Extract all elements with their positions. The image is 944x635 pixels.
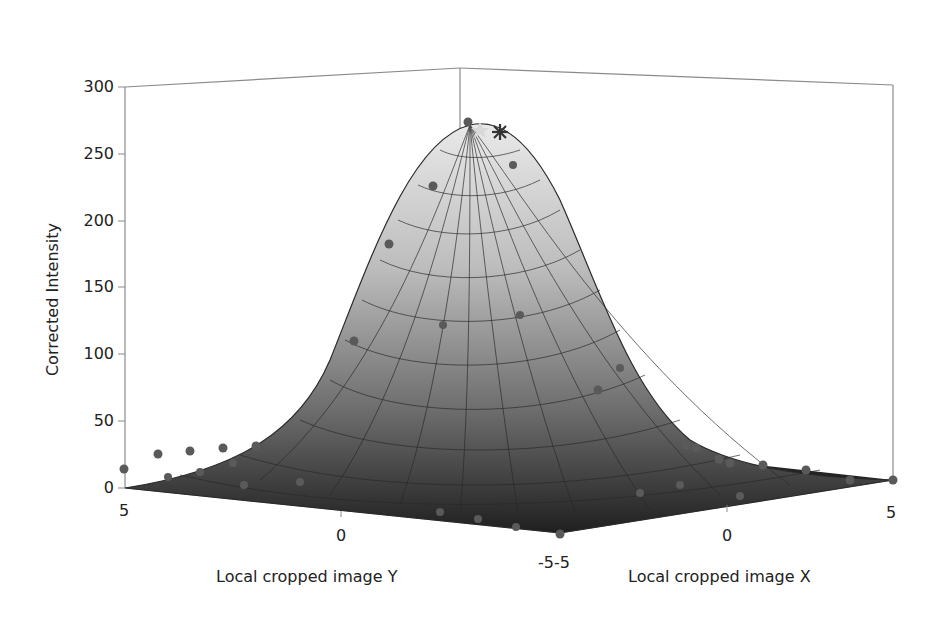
corner-tick: -5-5: [538, 555, 570, 571]
z-axis-title: Corrected Intensity: [43, 220, 62, 380]
z-tick-150: 150: [64, 279, 114, 295]
z-tick-250: 250: [64, 146, 114, 162]
y-tick-0: 0: [336, 528, 346, 544]
z-tick-0: 0: [64, 480, 114, 496]
y-tick-5: 5: [119, 503, 129, 519]
surface-plot: [0, 0, 944, 635]
z-tick-100: 100: [64, 346, 114, 362]
fitted-max-asterisk-marker: [492, 124, 508, 140]
y-axis-title: Local cropped image Y: [216, 567, 397, 586]
z-tick-50: 50: [64, 413, 114, 429]
z-tick-200: 200: [64, 213, 114, 229]
z-tick-300: 300: [64, 79, 114, 95]
x-tick-0: 0: [722, 528, 732, 544]
z-axis-ticks: [118, 87, 125, 488]
x-axis-title: Local cropped image X: [628, 567, 811, 586]
x-tick-5: 5: [886, 505, 896, 521]
gaussian-surface: [125, 124, 893, 533]
